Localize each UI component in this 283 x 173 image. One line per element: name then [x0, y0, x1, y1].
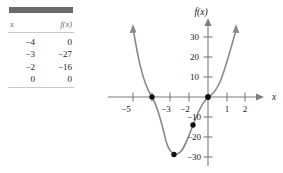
cell-x: −3	[8, 48, 37, 60]
table-header-bar	[9, 7, 73, 13]
data-point-0-0	[205, 94, 211, 100]
cell-fx: 0	[37, 33, 74, 49]
column-header-fx: f(x)	[37, 18, 74, 33]
y-tick-label-10: 10	[190, 72, 200, 82]
cell-fx: 0	[37, 73, 74, 87]
data-point--2--16	[190, 122, 195, 127]
function-curve	[133, 28, 236, 154]
table: x f(x) −4 0 −3 −27 −2 −16 0	[8, 18, 74, 88]
value-table: x f(x) −4 0 −3 −27 −2 −16 0	[8, 7, 80, 88]
x-tick-label--3: −3	[161, 104, 171, 114]
cell-fx: −16	[37, 61, 74, 73]
x-tick-label-1: 1	[225, 104, 230, 114]
table-row: −3 −27	[8, 48, 74, 60]
cell-x: −4	[8, 33, 37, 49]
figure-root: x f(x) −4 0 −3 −27 −2 −16 0	[0, 0, 283, 173]
y-tick-label-30: 30	[190, 32, 200, 42]
curve-right-arrow	[233, 24, 240, 33]
cell-x: 0	[8, 73, 37, 87]
y-tick-label--30: −30	[187, 152, 202, 162]
data-point--4-0	[149, 94, 154, 99]
graph-svg: f(x) x −5 −3 −2 1 2 30 20 10 −10 −20 −30	[104, 0, 283, 173]
table-header-row: x f(x)	[8, 18, 74, 33]
y-axis-arrow	[205, 18, 212, 26]
x-tick-label-2: 2	[243, 104, 248, 114]
cell-x: −2	[8, 61, 37, 73]
x-axis-label: x	[271, 92, 277, 102]
x-axis-arrow	[256, 94, 264, 101]
curve-left-arrow	[130, 24, 137, 33]
table-row: −4 0	[8, 33, 74, 49]
table-row: −2 −16	[8, 61, 74, 73]
y-axis-label: f(x)	[194, 7, 207, 18]
column-header-x: x	[8, 18, 37, 33]
cell-fx: −27	[37, 48, 74, 60]
y-tick-label--20: −20	[187, 132, 202, 142]
table-bottom-rule	[8, 87, 74, 88]
data-point--3--27	[171, 152, 176, 157]
y-tick-label--10: −10	[187, 112, 202, 122]
y-tick-label-20: 20	[190, 52, 200, 62]
x-tick-label--5: −5	[121, 104, 131, 114]
table-row: 0 0	[8, 73, 74, 87]
function-graph: f(x) x −5 −3 −2 1 2 30 20 10 −10 −20 −30	[104, 0, 283, 173]
